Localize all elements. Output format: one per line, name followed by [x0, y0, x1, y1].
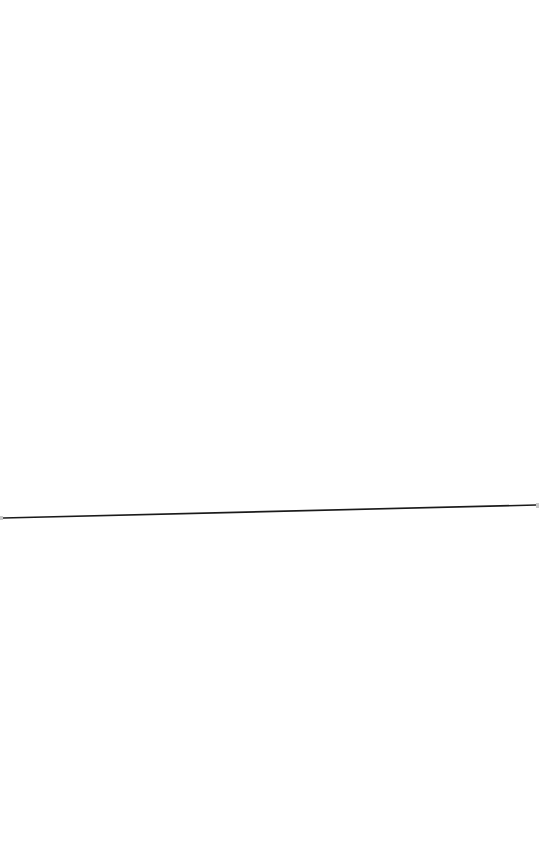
blank-canvas — [0, 0, 539, 864]
diagonal-line — [3, 505, 536, 518]
line-start-marker — [0, 516, 3, 520]
line-drawing — [0, 0, 539, 864]
